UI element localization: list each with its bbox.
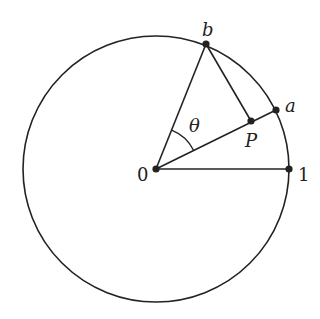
label-P: P: [244, 130, 258, 151]
point-a: [272, 106, 279, 113]
label-b: b: [202, 19, 214, 40]
point-P: [247, 117, 254, 124]
label-origin: 0: [137, 164, 148, 185]
point-b: [202, 40, 209, 47]
label-theta: θ: [189, 115, 200, 136]
label-a: a: [285, 95, 296, 116]
diagram-canvas: 0 1 a b P θ: [0, 0, 320, 319]
segment-0-to-b: [156, 44, 206, 169]
point-one: [285, 165, 292, 172]
label-one: 1: [298, 164, 309, 185]
point-origin: [152, 165, 159, 172]
segment-b-to-P: [206, 44, 251, 121]
segment-0-to-a: [156, 110, 276, 169]
